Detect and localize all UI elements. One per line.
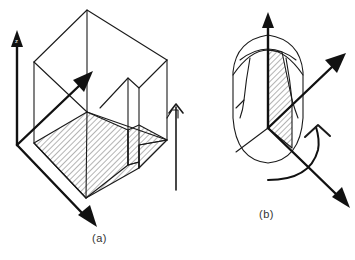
upward-arrow (169, 104, 183, 190)
panel-a: z (11, 10, 183, 227)
z-axis-arrow: z (11, 30, 23, 145)
panel-a-caption: (a) (92, 232, 107, 244)
diagram-canvas: z (0, 0, 355, 260)
panel-b-caption: (b) (259, 208, 274, 220)
hatched-sector (268, 50, 292, 148)
panel-b (233, 12, 350, 208)
z-axis-label: z (15, 38, 18, 44)
